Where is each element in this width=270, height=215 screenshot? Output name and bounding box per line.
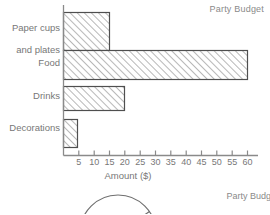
figure-root: Party Budget Paper cups and plates Food … (0, 0, 270, 214)
x-axis-title: Amount ($) (0, 170, 256, 181)
x-tick-label-55: 55 (227, 157, 237, 167)
pie-chart-fragment: Party Budge (0, 186, 270, 214)
x-axis-tick-labels: 5 10 15 20 25 30 35 40 45 50 55 60 (0, 157, 270, 169)
x-tick-label-40: 40 (181, 157, 191, 167)
x-tick-label-15: 15 (104, 157, 114, 167)
pie-circle-outline (80, 195, 156, 214)
x-tick-label-10: 10 (89, 157, 99, 167)
x-tick-label-20: 20 (120, 157, 130, 167)
x-tick-label-60: 60 (242, 157, 252, 167)
x-tick-label-5: 5 (76, 157, 81, 167)
bar-decorations (64, 120, 78, 148)
x-tick-label-35: 35 (166, 157, 176, 167)
bar-series (64, 13, 248, 148)
bar-drinks (64, 87, 125, 111)
pie-chart-title: Party Budge (226, 191, 270, 201)
x-tick-label-25: 25 (135, 157, 145, 167)
x-tick-label-45: 45 (196, 157, 206, 167)
x-axis-ticks (79, 151, 248, 156)
bar-chart: Party Budget Paper cups and plates Food … (0, 0, 270, 186)
bar-paper-cups-and-plates (64, 13, 110, 51)
x-tick-label-30: 30 (150, 157, 160, 167)
pie-slice-divider (118, 212, 150, 215)
x-tick-label-50: 50 (212, 157, 222, 167)
bar-food (64, 51, 248, 80)
